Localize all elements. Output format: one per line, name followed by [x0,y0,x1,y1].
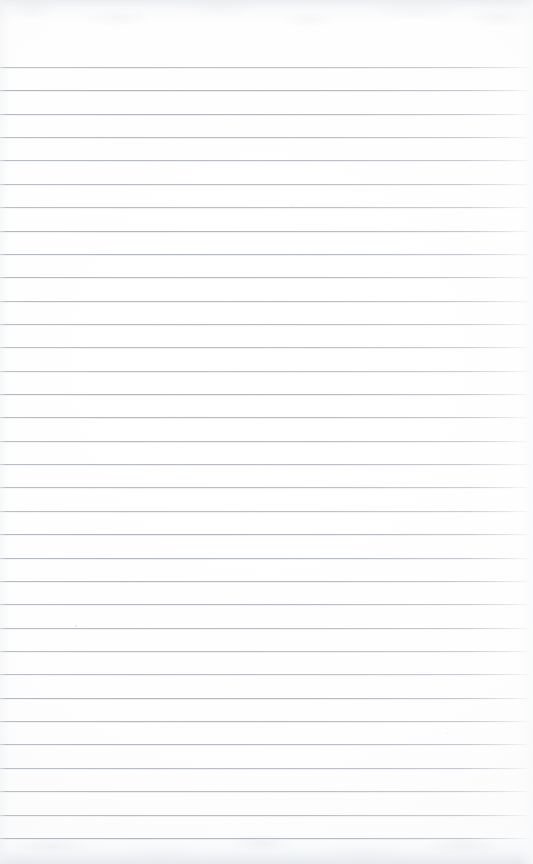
ruling-line [0,184,530,185]
ruling-line [0,768,530,769]
ruling-line [0,744,530,745]
ruling-line [0,347,530,348]
ruling-line [0,301,530,302]
ruling-line [0,581,530,582]
ruling-line [0,721,530,722]
ruling-line [0,137,530,138]
ruling-line [0,815,530,816]
ruling-line [0,838,530,839]
ruling-line [0,698,530,699]
ruling-line [0,604,530,605]
ruling-line [0,67,530,68]
ruling-line [0,254,530,255]
ruling-line [0,371,530,372]
scan-speck [75,625,77,627]
ruling-line [0,651,530,652]
ruling-line [0,628,530,629]
scan-speck [292,206,293,207]
ruling-line [0,441,530,442]
ruling-line [0,487,530,488]
ruling-line [0,511,530,512]
ruling-lines-group [0,0,533,864]
scanned-page [0,0,533,864]
ruling-line [0,558,530,559]
ruling-line [0,534,530,535]
scan-speck [447,733,448,734]
ruling-line [0,324,530,325]
ruling-line [0,207,530,208]
ruling-line [0,114,530,115]
ruling-line [0,674,530,675]
ruling-line [0,160,530,161]
ruling-line [0,464,530,465]
ruling-line [0,417,530,418]
ruling-line [0,791,530,792]
ruling-line [0,231,530,232]
ruling-line [0,394,530,395]
ruling-line [0,90,530,91]
ruling-line [0,277,530,278]
